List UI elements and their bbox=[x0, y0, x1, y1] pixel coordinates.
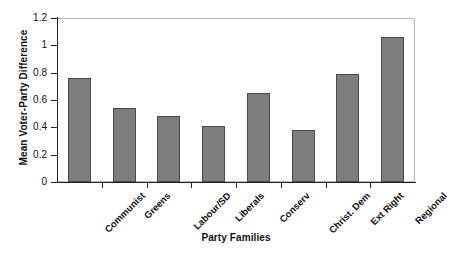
x-tick-mark bbox=[236, 183, 237, 188]
y-tick-mark bbox=[51, 182, 57, 183]
y-tick-mark bbox=[51, 127, 57, 128]
x-tick-label: Communist bbox=[102, 190, 147, 235]
bar bbox=[113, 108, 136, 182]
x-tick-label: Ext Right bbox=[368, 190, 405, 227]
x-axis-title: Party Families bbox=[57, 232, 415, 243]
y-tick-mark bbox=[51, 73, 57, 74]
bar bbox=[68, 78, 91, 182]
bar bbox=[381, 37, 404, 182]
x-tick-label: Christ. Dem bbox=[327, 190, 372, 235]
bar bbox=[202, 126, 225, 182]
x-tick-mark bbox=[326, 183, 327, 188]
x-tick-mark bbox=[370, 183, 371, 188]
x-tick-label: Regional bbox=[413, 190, 449, 226]
x-tick-label: Greens bbox=[142, 190, 173, 221]
x-tick-label: Liberals bbox=[233, 190, 267, 224]
y-tick-mark bbox=[51, 100, 57, 101]
x-tick-mark bbox=[102, 183, 103, 188]
y-tick-mark bbox=[51, 155, 57, 156]
y-axis-line bbox=[57, 17, 58, 183]
plot-area bbox=[57, 18, 415, 182]
y-tick-mark bbox=[51, 45, 57, 46]
bar bbox=[292, 130, 315, 182]
y-tick-mark bbox=[51, 18, 57, 19]
x-tick-label: Conserv bbox=[277, 190, 312, 225]
y-axis-title: Mean Voter-Party Difference bbox=[18, 13, 29, 183]
bar bbox=[336, 74, 359, 182]
x-tick-label: Labour/SD bbox=[191, 190, 233, 232]
bar bbox=[247, 93, 270, 182]
bar bbox=[157, 116, 180, 182]
x-tick-mark bbox=[147, 183, 148, 188]
x-tick-mark bbox=[191, 183, 192, 188]
x-tick-mark bbox=[281, 183, 282, 188]
